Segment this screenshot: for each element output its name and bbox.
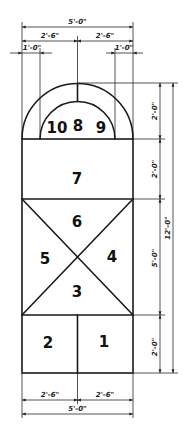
region-2-label: 2	[43, 334, 53, 352]
dimension-top-right-half: 2'-6"	[96, 32, 114, 40]
region-9-label: 9	[96, 119, 106, 137]
region-1-label: 1	[99, 333, 109, 351]
dimension-top-left-offset: 1'-0"	[23, 44, 41, 52]
region-10-label: 10	[47, 119, 68, 137]
dimension-bottom-overall: 5'-0"	[68, 405, 86, 413]
dimension-right-x-section: 5'-0"	[151, 249, 159, 267]
region-7-label: 7	[72, 170, 82, 188]
dimension-bottom-right-half: 2'-6"	[96, 391, 114, 399]
dimension-right-overall: 12'-0"	[164, 216, 172, 239]
dimension-right-arch: 2'-0"	[151, 102, 159, 120]
hopscotch-diagram: 5'-0" 2'-6" 2'-6" 1'-0" 1'-0" 1	[0, 0, 190, 435]
dimension-bottom-left-half: 2'-6"	[41, 391, 59, 399]
hopscotch-court: 10 9 8 7 6 5 4 3 2 1	[22, 84, 133, 374]
region-8-label: 8	[73, 117, 83, 135]
dimension-right-section-7: 2'-0"	[151, 160, 159, 178]
region-3-label: 3	[72, 283, 82, 301]
right-dimensions: 2'-0" 2'-0" 5'-0" 2'-0" 12'-0"	[78, 83, 179, 373]
region-5-label: 5	[40, 250, 50, 268]
region-4-label: 4	[107, 248, 117, 266]
dimension-right-bottom-section: 2'-0"	[151, 338, 159, 356]
dimension-top-left-half: 2'-6"	[41, 32, 59, 40]
region-6-label: 6	[72, 213, 82, 231]
bottom-dimensions: 2'-6" 2'-6" 5'-0"	[22, 373, 133, 418]
dimension-top-right-offset: 1'-0"	[115, 44, 133, 52]
dimension-top-overall: 5'-0"	[68, 18, 86, 26]
